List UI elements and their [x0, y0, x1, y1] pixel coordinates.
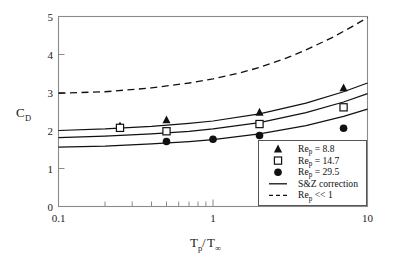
legend-marker-open-square: [274, 157, 281, 164]
x-axis-label-base1: T: [190, 235, 198, 250]
data-point-s2-2: [256, 132, 264, 140]
y-axis-label-base: C: [16, 105, 25, 120]
y-axis-label-sub: D: [25, 113, 31, 123]
data-point-s2-0: [163, 138, 171, 146]
data-point-s1-2: [256, 120, 263, 127]
y-tick-label-2: 2: [48, 125, 54, 137]
y-tick-label-5: 5: [48, 11, 54, 23]
x-axis-label-base2: T: [207, 235, 215, 250]
y-tick-label-0: 0: [48, 201, 54, 213]
data-point-s1-1: [163, 128, 170, 135]
data-point-s2-3: [340, 124, 348, 132]
legend-label-3: S&Z correction: [298, 178, 358, 189]
x-tick-label-10: 10: [362, 212, 374, 224]
y-tick-label-4: 4: [48, 49, 54, 61]
x-tick-label-1: 1: [210, 212, 216, 224]
legend-marker-filled-circle: [274, 168, 282, 176]
x-axis-label-sub2: ∞: [215, 243, 221, 253]
x-axis-label-slash: /: [202, 235, 206, 250]
y-tick-label-3: 3: [48, 87, 54, 99]
y-tick-label-1: 1: [48, 163, 54, 175]
data-point-s1-0: [116, 124, 123, 131]
data-point-s2-1: [209, 135, 217, 143]
drag-coefficient-chart: 0 1 2 3 4 5: [0, 0, 393, 259]
chart-legend: Rep = 8.8Rep = 14.7Rep = 29.5S&Z correct…: [259, 141, 367, 206]
x-tick-label-0p1: 0.1: [52, 212, 66, 224]
data-point-s1-3: [340, 104, 347, 111]
